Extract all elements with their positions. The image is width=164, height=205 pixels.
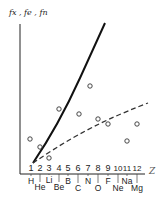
x-ticks: 1H2He3Li4Be5B6C7N8O9F10Ne11Na12Mg: [28, 163, 143, 193]
solid-curve: [33, 23, 105, 163]
tick-label: 10: [114, 164, 123, 173]
element-label: B: [65, 176, 71, 186]
element-label: C: [75, 183, 81, 193]
element-label: Be: [54, 182, 65, 192]
tick-label: 12: [133, 164, 142, 173]
tick-label: 7: [85, 163, 90, 173]
point-Li: [47, 156, 51, 160]
tick-label: 9: [105, 163, 110, 173]
tick-label: 2: [37, 163, 42, 173]
element-label: O: [95, 183, 102, 193]
tick-label: 5: [65, 163, 70, 173]
element-label: Li: [46, 175, 53, 185]
tick-label: 4: [56, 163, 61, 173]
point-O: [96, 117, 100, 121]
tick-label: 1: [28, 163, 33, 173]
element-label: H: [28, 176, 34, 186]
y-axis-label: fx , fe , fn: [8, 8, 48, 17]
point-Na: [125, 139, 129, 143]
point-H: [28, 137, 32, 141]
point-C: [77, 112, 81, 116]
point-Be: [57, 107, 61, 111]
element-label: F: [105, 176, 110, 186]
point-He: [38, 145, 42, 149]
tick-label: 11: [123, 164, 132, 173]
tick-label: 3: [46, 163, 51, 173]
tick-label: 6: [75, 163, 80, 173]
point-N: [88, 84, 92, 88]
point-Mg: [135, 122, 139, 126]
element-label: Mg: [131, 183, 143, 193]
point-F: [106, 122, 110, 126]
data-points: [28, 84, 139, 160]
element-label: He: [35, 182, 46, 192]
tick-label: 8: [95, 163, 100, 173]
x-axis-label: Z: [148, 166, 156, 176]
element-label: N: [85, 176, 91, 186]
dashed-line: [33, 103, 148, 163]
chart: fx , fe , fn Z 1H2He3Li4Be5B6C7N8O9F10Ne…: [0, 0, 164, 205]
